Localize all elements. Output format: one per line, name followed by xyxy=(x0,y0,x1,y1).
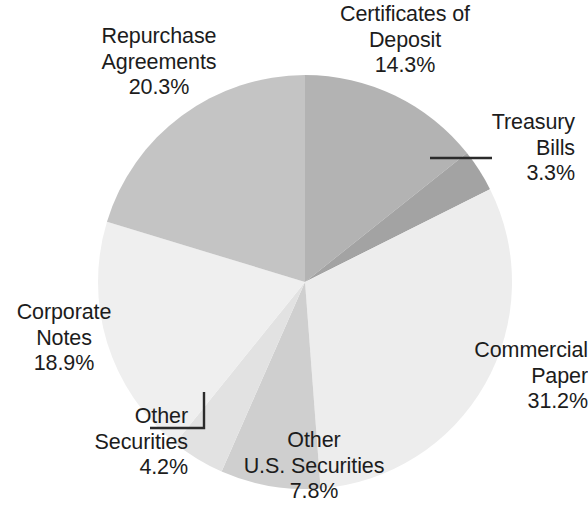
slice-value: 3.3% xyxy=(455,161,575,187)
slice-label-treasury-bills: Treasury Bills 3.3% xyxy=(455,110,575,187)
slice-label-line: Notes xyxy=(0,326,128,352)
slice-label-line: Securities xyxy=(36,430,188,456)
slice-label-line: Agreements xyxy=(62,50,256,76)
slice-value: 18.9% xyxy=(0,351,128,377)
slice-label-line: Paper xyxy=(452,364,588,390)
slice-label-line: Treasury xyxy=(455,110,575,136)
slice-value: 14.3% xyxy=(310,53,500,79)
slice-label-repurchase-agreements: Repurchase Agreements 20.3% xyxy=(62,24,256,101)
slice-value: 20.3% xyxy=(62,75,256,101)
slice-label-line: Bills xyxy=(455,136,575,162)
slice-value: 31.2% xyxy=(452,389,588,415)
slice-label-line: Corporate xyxy=(0,300,128,326)
slice-label-line: Deposit xyxy=(310,28,500,54)
slice-label-other-us-securities: Other U.S. Securities 7.8% xyxy=(222,428,406,505)
slice-label-line: U.S. Securities xyxy=(222,454,406,480)
slice-value: 7.8% xyxy=(222,479,406,505)
slice-label-line: Other xyxy=(36,404,188,430)
slice-label-corporate-notes: Corporate Notes 18.9% xyxy=(0,300,128,377)
slice-label-other-securities: Other Securities 4.2% xyxy=(36,404,188,481)
slice-label-line: Commercial xyxy=(452,338,588,364)
slice-label-commercial-paper: Commercial Paper 31.2% xyxy=(452,338,588,415)
slice-value: 4.2% xyxy=(36,455,188,481)
slice-label-line: Other xyxy=(222,428,406,454)
slice-label-line: Certificates of xyxy=(310,2,500,28)
slice-label-line: Repurchase xyxy=(62,24,256,50)
slice-label-certificates-of-deposit: Certificates of Deposit 14.3% xyxy=(310,2,500,79)
